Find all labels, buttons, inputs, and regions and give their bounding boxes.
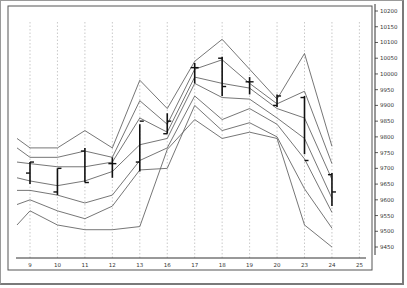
x-tick-label: 13 [136, 262, 143, 268]
y-tick-label: 10200 [380, 8, 398, 14]
x-tick-label: 17 [191, 262, 198, 268]
band-1-line [17, 39, 332, 148]
grid-lines [30, 22, 359, 258]
band-5-line [17, 96, 332, 212]
ohlc-bar-12 [108, 157, 116, 177]
band-7-line [17, 120, 332, 247]
x-tick-label: 16 [164, 262, 171, 268]
x-tick-label: 19 [246, 262, 253, 268]
x-axis: 9101112131617181920232425 [16, 258, 366, 268]
y-axis: 9450950095509600965097009750980098509900… [375, 4, 398, 255]
y-tick-label: 9450 [380, 244, 394, 250]
x-tick-label: 18 [219, 262, 226, 268]
x-tick-label: 9 [28, 262, 32, 268]
y-tick-label: 10000 [380, 71, 398, 77]
chart: 9101112131617181920232425 94509500955096… [0, 0, 407, 288]
y-tick-label: 9500 [380, 228, 394, 234]
band-lines [17, 39, 332, 247]
y-tick-label: 9700 [380, 165, 394, 171]
band-2-line [17, 60, 332, 164]
x-tick-label: 10 [54, 262, 61, 268]
x-tick-label: 23 [301, 262, 308, 268]
ohlc-bar-11 [81, 148, 89, 183]
y-tick-label: 9750 [380, 150, 394, 156]
x-tick-label: 20 [274, 262, 281, 268]
ohlc-bar-9 [26, 162, 34, 184]
y-tick-label: 9850 [380, 118, 394, 124]
ohlc-bar-24 [328, 173, 336, 206]
x-tick-label: 24 [328, 262, 335, 268]
y-tick-label: 10050 [380, 55, 398, 61]
plot-area-border [8, 6, 372, 270]
y-tick-label: 10150 [380, 24, 398, 30]
y-tick-label: 9800 [380, 134, 394, 140]
x-tick-label: 11 [81, 262, 88, 268]
y-tick-label: 9650 [380, 181, 394, 187]
ohlc-bar-10 [53, 168, 61, 195]
y-tick-label: 10100 [380, 39, 398, 45]
x-tick-label: 25 [356, 262, 363, 268]
x-tick-label: 12 [109, 262, 116, 268]
y-tick-label: 9950 [380, 87, 394, 93]
y-tick-label: 9600 [380, 197, 394, 203]
y-tick-label: 9900 [380, 102, 394, 108]
ohlc-bar-23 [301, 96, 309, 161]
y-tick-label: 9550 [380, 213, 394, 219]
